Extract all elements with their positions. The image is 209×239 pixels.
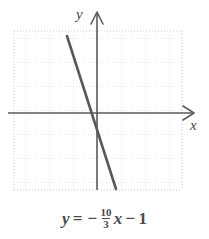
equation-variable: x — [114, 209, 123, 229]
fraction-denominator: 3 — [102, 218, 110, 230]
leading-minus-sign: − — [86, 209, 99, 229]
fraction-ten-thirds: 10 3 — [99, 207, 112, 230]
graph-figure: y x y = − 10 3 x − 1 — [0, 0, 209, 239]
plot-area: y x — [0, 0, 209, 200]
coordinate-plane — [0, 0, 209, 200]
equation-expression: y = − 10 3 x − 1 — [62, 207, 147, 230]
x-axis-label: x — [190, 118, 197, 133]
equation-constant: 1 — [138, 209, 147, 229]
equation-caption: y = − 10 3 x − 1 — [0, 199, 209, 239]
y-axis-label: y — [76, 7, 83, 22]
equation-lhs: y — [62, 209, 70, 229]
minus-operator: − — [123, 209, 139, 229]
fraction-numerator: 10 — [99, 207, 112, 218]
grid-lines — [14, 31, 182, 190]
equals-sign: = — [70, 209, 86, 229]
